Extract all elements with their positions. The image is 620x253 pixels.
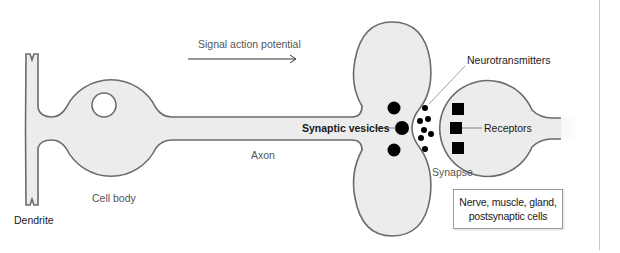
nucleus xyxy=(92,93,116,117)
page-divider xyxy=(599,0,600,250)
arrow-label: Signal action potential xyxy=(198,38,301,50)
neurotransmitters-label: Neurotransmitters xyxy=(467,54,550,66)
receptor xyxy=(452,103,464,115)
dendrite-label: Dendrite xyxy=(14,214,54,226)
synaptic-vesicle xyxy=(388,144,401,157)
target-cells-line1: Nerve, muscle, gland, xyxy=(459,195,556,209)
synapse-label: Synapse xyxy=(432,166,473,178)
synaptic-vesicle xyxy=(395,121,409,135)
receptors-label: Receptors xyxy=(484,122,532,134)
cell-body-label: Cell body xyxy=(92,192,137,204)
synaptic-vesicle xyxy=(388,102,401,115)
neurotransmitters xyxy=(417,105,434,152)
target-cells-box: Nerve, muscle, gland, postsynaptic cells xyxy=(453,189,563,229)
receptor xyxy=(452,142,464,154)
axon-label: Axon xyxy=(251,149,275,161)
receptor xyxy=(450,122,462,134)
signal-arrow-icon xyxy=(188,55,296,63)
synaptic-vesicles-label: Synaptic vesicles xyxy=(302,122,390,134)
target-cells-line2: postsynaptic cells xyxy=(459,209,556,223)
